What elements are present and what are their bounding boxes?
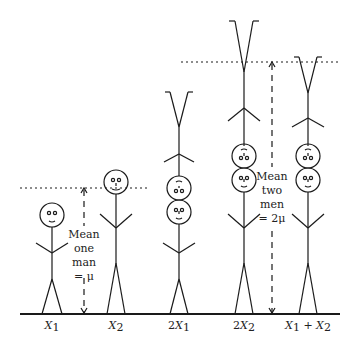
figure-x1 <box>36 203 68 314</box>
figure-2x1 <box>163 92 195 314</box>
annotation-one-line1: Mean <box>68 228 99 241</box>
annotation-two-line4: = 2μ <box>259 212 286 225</box>
head-icon <box>40 203 64 227</box>
annotation-one-line3: man <box>72 256 96 269</box>
figure-x1-plus-x2 <box>292 57 324 314</box>
label-2x2: 2X2 <box>233 319 255 334</box>
annotation-two-line2: two <box>262 184 283 197</box>
label-x2: X2 <box>108 319 124 334</box>
label-x1-plus-x2: X1 + X2 <box>284 319 331 334</box>
annotation-two-line3: men <box>260 198 284 211</box>
annotation-one-line2: one <box>74 242 94 255</box>
annotation-two-line1: Mean <box>256 170 287 183</box>
stick-figure-diagram: Mean one man = μ Mean two men = 2μ X1 X2… <box>0 0 359 347</box>
annotation-one-line4: = μ <box>74 270 94 283</box>
label-2x1: 2X1 <box>168 319 190 334</box>
figure-2x2 <box>228 21 260 314</box>
figure-x2 <box>100 170 132 314</box>
label-x1: X1 <box>44 319 60 334</box>
